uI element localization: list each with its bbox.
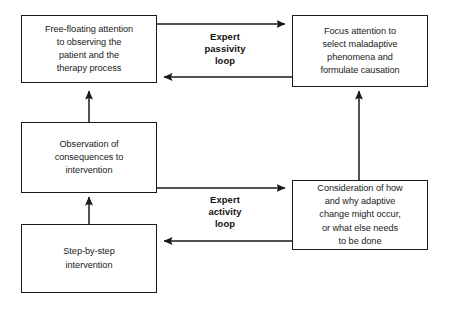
node-focus-attention: Focus attention to select maladaptive ph… <box>292 15 428 87</box>
node-free-floating-attention-label: Free-floating attention to observing the… <box>45 23 133 75</box>
node-consideration-of-change-label: Consideration of how and why adaptive ch… <box>317 182 402 247</box>
node-free-floating-attention: Free-floating attention to observing the… <box>21 15 157 83</box>
node-consideration-of-change: Consideration of how and why adaptive ch… <box>292 180 428 250</box>
node-step-by-step-intervention-label: Step-by-step intervention <box>63 245 115 271</box>
node-focus-attention-label: Focus attention to select maladaptive ph… <box>320 25 399 77</box>
flow-diagram: Free-floating attention to observing the… <box>0 0 450 312</box>
node-observation-of-consequences: Observation of consequences to intervent… <box>21 122 157 193</box>
node-observation-of-consequences-label: Observation of consequences to intervent… <box>55 138 124 177</box>
label-expert-activity-loop: Expert activity loop <box>186 194 264 230</box>
label-expert-passivity-loop: Expert passivity loop <box>186 31 264 67</box>
node-step-by-step-intervention: Step-by-step intervention <box>21 224 157 293</box>
